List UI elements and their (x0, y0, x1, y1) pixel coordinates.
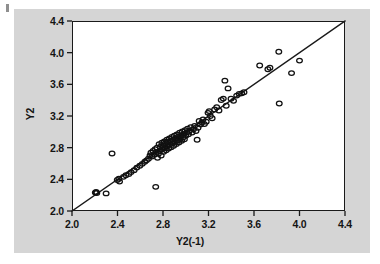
x-tick-label: 4.0 (282, 218, 318, 230)
x-tick-label: 2.8 (145, 218, 181, 230)
y-tick-label: 2.8 (32, 142, 64, 154)
page-corner-mark (6, 4, 9, 12)
y-tick-label: 4.4 (32, 15, 64, 27)
x-tick-label: 4.4 (327, 218, 363, 230)
y-tick-label: 3.2 (32, 110, 64, 122)
x-axis-title: Y2(-1) (0, 235, 380, 247)
y-axis-title: Y2 (24, 108, 36, 120)
y-tick-label: 4.0 (32, 47, 64, 59)
x-tick-label: 3.2 (191, 218, 227, 230)
y-tick-label: 3.6 (32, 78, 64, 90)
y-tick-label: 2.4 (32, 173, 64, 185)
figure-container: 2.02.42.83.23.64.04.4 2.02.42.83.23.64.0… (0, 0, 380, 264)
plot-area (72, 21, 345, 211)
y-tick-label: 2.0 (32, 205, 64, 217)
x-tick-label: 3.6 (236, 218, 272, 230)
x-tick-label: 2.4 (100, 218, 136, 230)
x-tick-label: 2.0 (54, 218, 90, 230)
